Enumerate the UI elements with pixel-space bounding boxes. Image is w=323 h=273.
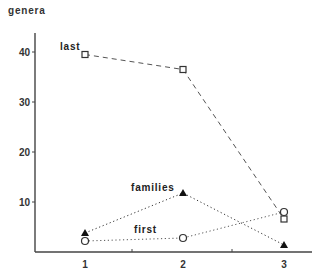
series-label-families: families — [131, 182, 175, 193]
series-group — [81, 52, 288, 249]
series-labels: lastfamiliesfirst — [60, 41, 175, 235]
square-marker — [82, 52, 88, 58]
y-tick-label: 10 — [19, 197, 31, 208]
square-marker — [180, 67, 186, 73]
triangle-marker — [179, 189, 187, 196]
triangle-marker — [280, 241, 288, 248]
x-tick-label: 2 — [180, 259, 186, 270]
axes — [35, 33, 312, 252]
axis-ticks: 10203040123 — [19, 47, 287, 271]
series-label-first: first — [134, 224, 157, 235]
square-marker — [281, 216, 287, 222]
x-tick-label: 3 — [281, 259, 287, 270]
triangle-marker — [81, 229, 89, 236]
y-tick-label: 30 — [19, 97, 31, 108]
series-last — [82, 52, 287, 223]
y-axis-label: genera — [8, 5, 46, 16]
x-tick-label: 1 — [82, 259, 88, 270]
series-label-last: last — [60, 41, 80, 52]
series-first — [82, 209, 288, 245]
circle-marker — [82, 238, 89, 245]
line-chart: genera 10203040123 lastfamiliesfirst — [0, 0, 323, 273]
y-tick-label: 20 — [19, 147, 31, 158]
y-tick-label: 40 — [19, 47, 31, 58]
circle-marker — [281, 209, 288, 216]
circle-marker — [180, 235, 187, 242]
